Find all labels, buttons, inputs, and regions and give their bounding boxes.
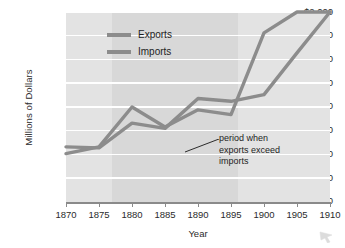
legend-item-imports: Imports [107, 43, 172, 60]
x-tick-label: 1910 [310, 209, 345, 220]
x-tick [132, 202, 133, 207]
legend-swatch-exports [107, 33, 131, 37]
annotation-line-2: exports exceed [219, 145, 297, 157]
legend-swatch-imports [107, 50, 131, 54]
x-tick [198, 202, 199, 207]
x-tick [231, 202, 232, 207]
x-tick [297, 202, 298, 207]
legend-item-exports: Exports [107, 26, 172, 43]
legend-label-exports: Exports [138, 29, 172, 40]
x-tick [165, 202, 166, 207]
annotation-line-3: imports [219, 156, 297, 168]
plot-area [66, 12, 330, 202]
y-axis-title: Millions of Dollars [23, 28, 34, 188]
annotation-leader-line [185, 139, 219, 153]
annotation-line-1: period when [219, 133, 297, 145]
annotation-exports-exceed-imports: period when exports exceed imports [219, 133, 297, 168]
line-imports [66, 12, 330, 148]
chart-legend: Exports Imports [107, 26, 172, 60]
x-tick [66, 202, 67, 207]
series-lines [66, 12, 330, 202]
cursor-arrow-icon [319, 231, 333, 243]
x-axis-title: Year [66, 228, 330, 239]
legend-label-imports: Imports [138, 46, 171, 57]
x-tick [264, 202, 265, 207]
x-tick [330, 202, 331, 207]
x-tick [99, 202, 100, 207]
